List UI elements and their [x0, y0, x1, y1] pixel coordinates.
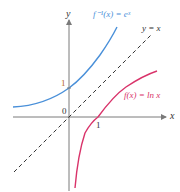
x-tick-label-1: 1 [96, 121, 101, 130]
exp-curve [13, 27, 117, 107]
exp-curve-label: f⁻¹(x) = eˣ [93, 10, 130, 19]
y-tick-label-1: 1 [61, 79, 66, 88]
log-curve [75, 71, 157, 188]
y-axis-label: y [66, 9, 70, 19]
identity-line-label: y = x [142, 24, 161, 33]
origin-label: 0 [62, 107, 67, 116]
log-curve-label: f(x) = ln x [124, 91, 160, 100]
x-axis-label: x [170, 111, 174, 121]
inverse-functions-diagram: y x 0 1 1 f⁻¹(x) = eˣ y = x f(x) = ln x [0, 0, 180, 192]
